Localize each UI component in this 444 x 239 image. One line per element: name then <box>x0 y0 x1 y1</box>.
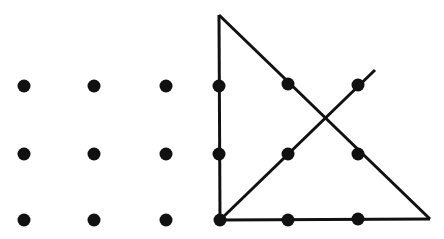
grid-dot <box>160 80 173 93</box>
grid-dot <box>213 148 226 161</box>
grid-dot <box>214 214 227 227</box>
grid-dot <box>18 148 31 161</box>
grid-dot <box>88 214 101 227</box>
grid-dot <box>160 148 173 161</box>
base-edge <box>220 219 430 220</box>
vertical-edge <box>219 15 220 220</box>
grid-dot <box>282 214 295 227</box>
grid-dot <box>352 213 365 226</box>
grid-dot <box>282 148 295 161</box>
background <box>0 0 444 239</box>
grid-dot <box>213 80 226 93</box>
diagram-canvas <box>0 0 444 239</box>
grid-dot <box>352 79 365 92</box>
grid-dot <box>18 214 31 227</box>
grid-dot <box>160 214 173 227</box>
grid-dot <box>18 80 31 93</box>
grid-dot <box>88 80 101 93</box>
grid-dot <box>88 148 101 161</box>
grid-dot <box>352 148 365 161</box>
grid-dot <box>282 78 295 91</box>
